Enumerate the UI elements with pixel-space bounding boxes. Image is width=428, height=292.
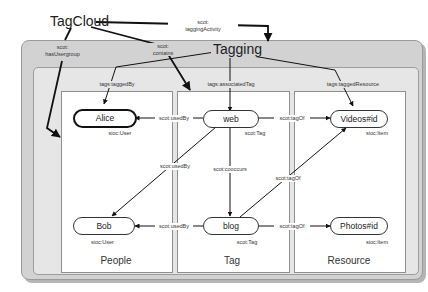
edge-label-associated-tag: tags:associatedTag [203, 81, 259, 88]
edge-label-contains: scot: contains [143, 43, 183, 56]
node-web: web [203, 110, 259, 128]
node-blog-type: scot:Tag [232, 239, 262, 246]
edge-label-web-tag-of-videos: scot:tagOf [274, 115, 310, 122]
node-bob-type: sioc:User [80, 239, 125, 246]
node-bob: Bob [73, 217, 135, 235]
edge-label-has-usergroup: scot: hasUsergroup [40, 44, 85, 57]
edge-label-web-used-by-alice: scot:usedBy [155, 115, 193, 122]
node-videos: Videos#id [330, 110, 388, 128]
edge-label-blog-tag-of-videos: scot:tagOf [271, 175, 305, 182]
node-blog: blog [203, 217, 259, 235]
edge-label-web-used-by-bob: scot:usedBy [156, 163, 194, 170]
edge-label-tagging-activity: scot: taggingActivity [168, 19, 238, 32]
group-label-people: People [91, 255, 141, 266]
tagging-node: Tagging [211, 41, 264, 57]
tagcloud-node: TagCloud [50, 13, 109, 29]
node-photos: Photos#id [330, 217, 388, 235]
group-label-resource: Resource [319, 255, 379, 266]
edge-label-tagged-by: tags:taggedBy [92, 81, 142, 88]
edge-label-line: taggingActivity [168, 26, 238, 33]
edge-label-blog-tag-of-photos: scot:tagOf [274, 223, 310, 230]
node-alice-type: sioc:User [105, 130, 135, 137]
edge-label-blog-used-by-bob: scot:usedBy [155, 223, 193, 230]
edge-label-line: contains [143, 50, 183, 57]
edge-label-line: hasUsergroup [40, 51, 85, 58]
edge-label-tagged-resource: tags:taggedResource [322, 81, 384, 88]
group-label-tag: Tag [207, 255, 257, 266]
node-web-type: scot:Tag [240, 130, 270, 137]
node-alice: Alice [73, 109, 137, 128]
node-videos-type: sioc:Item [362, 130, 392, 137]
node-photos-type: sioc:Item [362, 239, 392, 246]
edge-label-cooccurs: scot:cooccurs [210, 166, 250, 173]
